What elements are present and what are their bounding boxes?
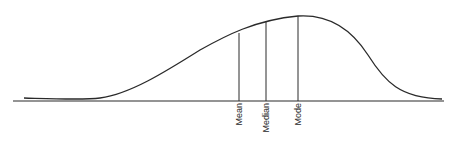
distribution-curve xyxy=(24,16,442,99)
skewed-distribution-diagram: Mean Median Mode xyxy=(0,0,452,141)
mode-label: Mode xyxy=(293,103,303,126)
mean-label: Mean xyxy=(234,103,244,126)
median-label: Median xyxy=(261,103,271,133)
